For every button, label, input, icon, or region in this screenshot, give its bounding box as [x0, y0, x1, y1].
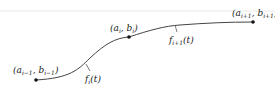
label-point-current: (ai, bi) — [110, 23, 138, 34]
label-f-i: fi(t) — [84, 74, 101, 85]
leader-f-i-plus-1 — [175, 25, 177, 32]
point-next — [251, 20, 255, 24]
label-point-next: (ai+1, bi+1) — [232, 8, 275, 19]
spline-diagram: (ai−1, bi−1) (ai, bi) (ai+1, bi+1) fi(t)… — [0, 0, 275, 92]
point-current — [127, 35, 131, 39]
label-f-i-plus-1: fi+1(t) — [168, 35, 194, 46]
label-point-prev: (ai−1, bi−1) — [13, 65, 59, 76]
leader-f-i — [86, 64, 90, 71]
point-prev — [34, 78, 38, 82]
